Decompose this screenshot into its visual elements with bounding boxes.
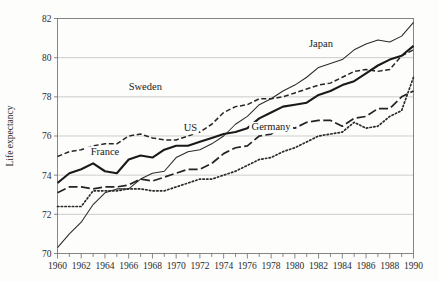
x-tick-label: 1978 bbox=[262, 261, 281, 271]
series-line-france bbox=[58, 46, 414, 183]
x-tick-label: 1972 bbox=[190, 261, 209, 271]
x-tick-label: 1964 bbox=[95, 261, 114, 271]
x-tick-label: 1962 bbox=[72, 261, 91, 271]
y-axis-title: Life expectancy bbox=[5, 105, 15, 166]
x-tick-label: 1988 bbox=[380, 261, 399, 271]
chart-figure: 70727476788082 1960196219641966196819701… bbox=[0, 0, 439, 282]
x-tick-label: 1974 bbox=[214, 261, 233, 271]
axis-ticks bbox=[54, 19, 414, 259]
series-label-france: France bbox=[91, 146, 120, 157]
y-tick-label: 70 bbox=[42, 249, 52, 259]
y-tick-labels: 70727476788082 bbox=[42, 14, 52, 259]
y-tick-label: 72 bbox=[42, 210, 52, 220]
series-label-japan: Japan bbox=[309, 38, 334, 49]
x-tick-label: 1982 bbox=[309, 261, 328, 271]
x-tick-label: 1990 bbox=[404, 261, 423, 271]
y-tick-label: 82 bbox=[42, 14, 52, 24]
x-tick-labels: 1960196219641966196819701972197419761978… bbox=[48, 261, 423, 271]
x-tick-label: 1970 bbox=[167, 261, 186, 271]
gridlines bbox=[58, 19, 414, 215]
series-line-japan bbox=[58, 22, 414, 247]
x-tick-label: 1984 bbox=[333, 261, 352, 271]
line-chart-canvas: 70727476788082 1960196219641966196819701… bbox=[0, 0, 439, 282]
x-tick-label: 1968 bbox=[143, 261, 162, 271]
series-label-sweden: Sweden bbox=[129, 81, 163, 92]
x-tick-label: 1986 bbox=[357, 261, 376, 271]
y-tick-label: 78 bbox=[42, 92, 52, 102]
series-label-us: US bbox=[184, 122, 198, 133]
x-tick-label: 1980 bbox=[285, 261, 304, 271]
x-tick-label: 1976 bbox=[238, 261, 257, 271]
series-line-sweden bbox=[58, 50, 414, 157]
series-lines bbox=[58, 22, 414, 247]
y-tick-label: 76 bbox=[42, 131, 52, 141]
y-tick-label: 74 bbox=[42, 171, 52, 181]
x-tick-label: 1966 bbox=[119, 261, 138, 271]
y-axis-title: Life expectancy bbox=[5, 105, 15, 166]
x-tick-label: 1960 bbox=[48, 261, 67, 271]
series-label-germany: Germany bbox=[252, 121, 292, 132]
y-tick-label: 80 bbox=[42, 53, 52, 63]
